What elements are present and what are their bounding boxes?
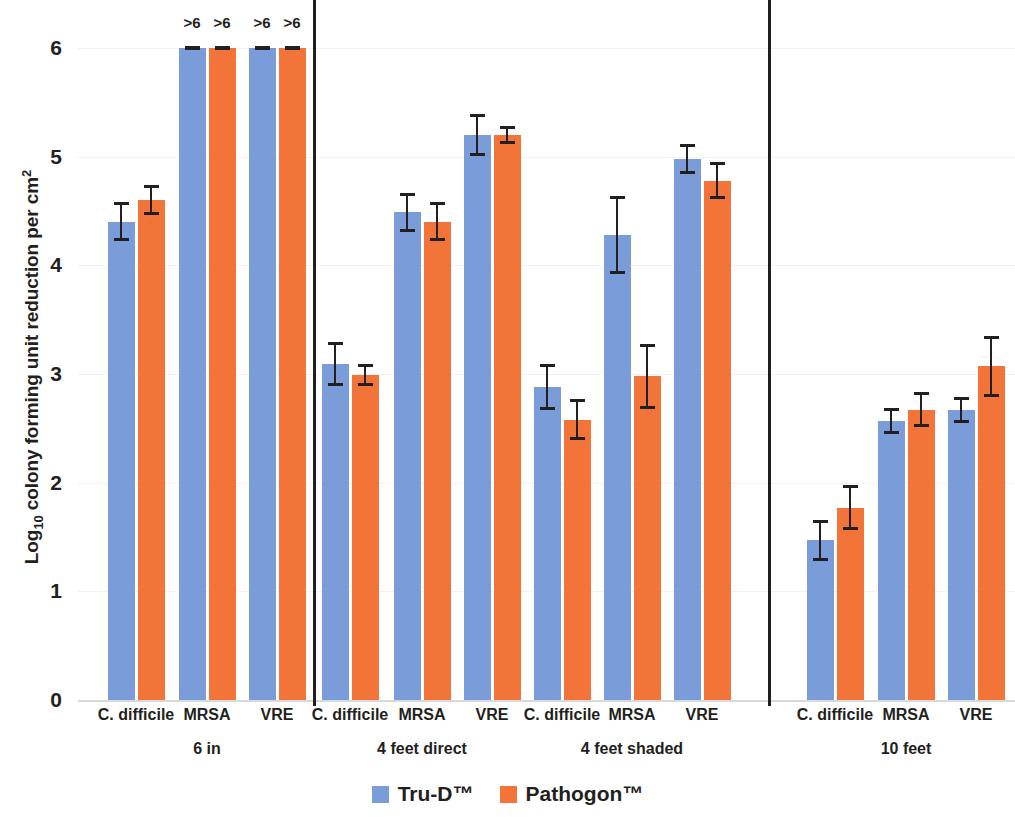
- error-bar-cap-top: [144, 185, 159, 188]
- bar-4-feet-direct-C-difficile-pathogon: [352, 375, 379, 700]
- legend-item-tru-d[interactable]: Tru-D™: [372, 782, 474, 806]
- error-bar-cap-bottom: [114, 238, 129, 241]
- error-bar-cap-bottom: [470, 153, 485, 156]
- legend-swatch-icon: [372, 786, 389, 803]
- bar-chart: Log10 colony forming unit reduction per …: [0, 0, 1015, 817]
- error-bar-cap-bottom: [914, 424, 929, 427]
- error-bar: [436, 202, 438, 241]
- bar-6-in-C-difficile-tru-d: [108, 222, 135, 700]
- bar-4-feet-shaded-C-difficile-pathogon: [564, 420, 591, 700]
- error-bar-cap-top: [358, 364, 373, 367]
- error-bar: [334, 342, 336, 385]
- error-bar-cap-top: [843, 485, 858, 488]
- error-bar-cap-top: [710, 162, 725, 165]
- y-axis-tick-3: 3: [20, 362, 62, 386]
- error-bar-cap-bottom: [144, 212, 159, 215]
- bar-4-feet-shaded-VRE-pathogon: [704, 181, 731, 700]
- x-axis-group-label: 6 in: [107, 740, 307, 758]
- error-bar-cap-top: [430, 202, 445, 205]
- error-bar-cap-top: [570, 399, 585, 402]
- error-bar: [990, 336, 992, 397]
- bar-value-annotation: >6: [269, 14, 315, 31]
- y-axis-tick-0: 0: [20, 688, 62, 712]
- error-bar-cap-bottom: [610, 271, 625, 274]
- error-bar-cap-top: [328, 342, 343, 345]
- bar-4-feet-direct-VRE-tru-d: [464, 135, 491, 700]
- error-bar-cap-top: [954, 397, 969, 400]
- error-bar-cap-bottom: [570, 437, 585, 440]
- error-bar-cap-bottom: [328, 383, 343, 386]
- error-bar: [646, 344, 648, 409]
- x-axis-category-label: VRE: [642, 706, 762, 724]
- error-bar: [150, 185, 152, 215]
- x-axis-category-label: VRE: [916, 706, 1015, 724]
- error-bar-cap-bottom: [358, 383, 373, 386]
- error-bar-cap-bottom: [400, 229, 415, 232]
- bar-6-in-VRE-pathogon: [279, 48, 306, 700]
- bar-6-in-VRE-tru-d: [249, 48, 276, 700]
- bar-10-feet-VRE-pathogon: [978, 366, 1005, 700]
- x-axis-baseline: [78, 700, 1015, 702]
- error-bar: [546, 364, 548, 410]
- y-axis-tick-1: 1: [20, 579, 62, 603]
- y-axis-tick-5: 5: [20, 145, 62, 169]
- error-bar: [576, 399, 578, 440]
- bar-4-feet-direct-MRSA-pathogon: [424, 222, 451, 700]
- y-axis-title-superscript: 2: [19, 170, 34, 177]
- y-axis-title-subscript: 10: [31, 515, 46, 529]
- bar-10-feet-C-difficile-pathogon: [837, 508, 864, 700]
- error-bar-cap-bottom: [500, 141, 515, 144]
- error-bar-cap-bottom: [680, 171, 695, 174]
- x-axis-group-label: 4 feet direct: [322, 740, 522, 758]
- error-bar-cap-bottom: [710, 196, 725, 199]
- y-axis-tick-4: 4: [20, 253, 62, 277]
- bar-6-in-MRSA-tru-d: [179, 48, 206, 700]
- error-bar: [716, 162, 718, 199]
- error-bar-cap-top: [610, 196, 625, 199]
- error-bar-cap-bottom: [843, 527, 858, 530]
- x-axis-group-label: 4 feet shaded: [532, 740, 732, 758]
- bar-10-feet-MRSA-tru-d: [878, 421, 905, 700]
- y-axis-title-mid: colony forming unit reduction per cm: [21, 177, 42, 515]
- error-bar-cap-bottom: [984, 394, 999, 397]
- error-bar: [120, 202, 122, 241]
- bar-4-feet-shaded-MRSA-tru-d: [604, 235, 631, 700]
- bar-10-feet-VRE-tru-d: [948, 410, 975, 700]
- error-bar-cap-top: [114, 202, 129, 205]
- bar-10-feet-MRSA-pathogon: [908, 410, 935, 700]
- error-bar-cap-bottom: [540, 407, 555, 410]
- error-bar: [406, 193, 408, 232]
- error-bar-cap-top: [914, 392, 929, 395]
- x-axis-group-label: 10 feet: [806, 740, 1006, 758]
- error-bar-cap-top: [470, 114, 485, 117]
- bar-4-feet-shaded-VRE-tru-d: [674, 159, 701, 700]
- legend-label: Tru-D™: [398, 782, 474, 806]
- legend-label: Pathogon™: [526, 782, 644, 806]
- error-bar-cap-bottom: [954, 420, 969, 423]
- bar-10-feet-C-difficile-tru-d: [807, 540, 834, 700]
- error-bar: [920, 392, 922, 427]
- legend-swatch-icon: [500, 786, 517, 803]
- error-bar: [819, 520, 821, 561]
- error-bar-cap-top: [540, 364, 555, 367]
- error-bar: [849, 485, 851, 531]
- y-axis-tick-6: 6: [20, 36, 62, 60]
- error-bar-cap-bottom: [884, 431, 899, 434]
- bar-4-feet-direct-MRSA-tru-d: [394, 212, 421, 700]
- bar-6-in-MRSA-pathogon: [209, 48, 236, 700]
- error-bar-cap-top: [884, 408, 899, 411]
- y-axis-title-prefix: Log: [21, 530, 42, 565]
- group-separator: [313, 0, 316, 706]
- bar-4-feet-direct-C-difficile-tru-d: [322, 364, 349, 700]
- error-bar-cap-top: [813, 520, 828, 523]
- error-bar-cap-top: [400, 193, 415, 196]
- error-bar-cap-top: [984, 336, 999, 339]
- error-bar-cap-bottom: [640, 406, 655, 409]
- y-axis-tick-2: 2: [20, 471, 62, 495]
- group-separator: [768, 0, 771, 706]
- bar-4-feet-shaded-C-difficile-tru-d: [534, 387, 561, 700]
- error-bar-cap-bottom: [255, 47, 270, 50]
- error-bar-cap-bottom: [813, 558, 828, 561]
- legend-item-pathogon[interactable]: Pathogon™: [500, 782, 644, 806]
- error-bar-cap-top: [680, 144, 695, 147]
